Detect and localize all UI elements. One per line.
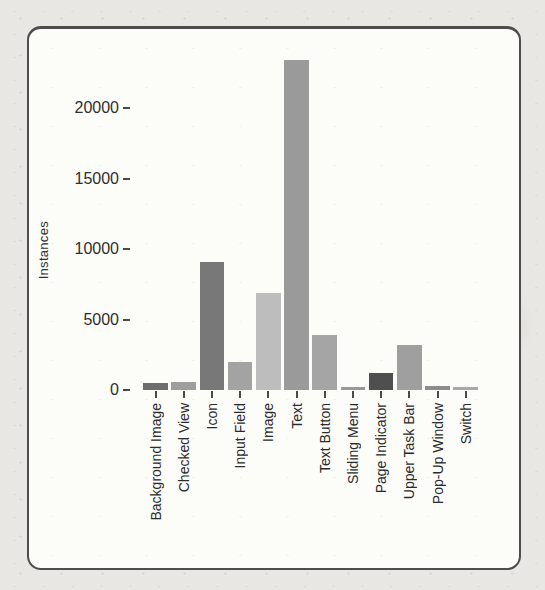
scanned-page: { "chart_data": { "type": "bar", "title"… xyxy=(0,0,545,590)
bar-sliding-menu xyxy=(341,387,366,390)
y-tick-label: 15000 xyxy=(39,170,119,188)
x-tick-mark xyxy=(155,391,157,398)
x-tick-mark xyxy=(211,391,213,398)
y-tick-label: 0 xyxy=(39,381,119,399)
figure-frame: Instances 05000100001500020000Background… xyxy=(27,26,521,570)
x-tick-label: Text Button xyxy=(316,403,334,473)
x-tick-label: Checked View xyxy=(175,403,193,492)
x-tick-label: Input Field xyxy=(231,403,249,468)
x-tick-label: Page Indicator xyxy=(372,403,390,493)
bar-upper-task-bar xyxy=(397,345,422,390)
y-tick-mark xyxy=(123,107,130,109)
x-tick-label: Sliding Menu xyxy=(344,403,362,484)
x-tick-mark xyxy=(408,391,410,398)
bar-background-image xyxy=(143,383,168,390)
x-tick-label: Switch xyxy=(457,403,475,444)
bar-text xyxy=(284,60,309,390)
y-tick-label: 10000 xyxy=(39,240,119,258)
bar-pop-up-window xyxy=(425,386,450,390)
x-tick-label: Image xyxy=(259,403,277,442)
y-tick-mark xyxy=(123,178,130,180)
y-tick-label: 5000 xyxy=(39,311,119,329)
bar-chart: Instances 05000100001500020000Background… xyxy=(29,29,519,568)
x-tick-mark xyxy=(324,391,326,398)
bar-checked-view xyxy=(171,382,196,390)
y-tick-label: 20000 xyxy=(39,99,119,117)
x-tick-mark xyxy=(380,391,382,398)
bar-text-button xyxy=(312,335,337,390)
x-tick-label: Text xyxy=(288,403,306,429)
x-tick-label: Upper Task Bar xyxy=(400,403,418,499)
bar-image xyxy=(256,293,281,390)
x-tick-mark xyxy=(352,391,354,398)
x-tick-mark xyxy=(239,391,241,398)
x-tick-mark xyxy=(183,391,185,398)
x-tick-mark xyxy=(437,391,439,398)
bar-page-indicator xyxy=(369,373,394,390)
bar-switch xyxy=(453,387,478,390)
x-tick-label: Pop-Up Window xyxy=(429,403,447,504)
y-tick-mark xyxy=(123,389,130,391)
x-tick-mark xyxy=(465,391,467,398)
bar-input-field xyxy=(228,362,253,390)
x-tick-label: Icon xyxy=(203,403,221,429)
x-tick-mark xyxy=(267,391,269,398)
x-tick-label: Background Image xyxy=(147,403,165,521)
y-tick-mark xyxy=(123,319,130,321)
x-tick-mark xyxy=(296,391,298,398)
bar-icon xyxy=(200,262,225,390)
y-tick-mark xyxy=(123,248,130,250)
